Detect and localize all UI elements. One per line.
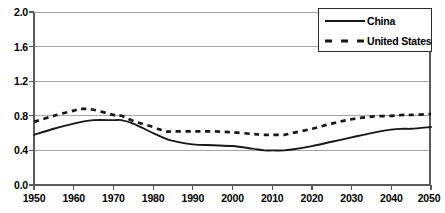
series-line-china (34, 120, 431, 151)
x-tick-label-2050: 2050 (409, 192, 445, 204)
x-tick-label-1990: 1990 (173, 192, 213, 204)
gridlines (34, 47, 431, 151)
dashed-line-swatch (323, 34, 367, 48)
y-tick-label-2.0: 2.0 (0, 6, 28, 18)
x-tick-label-1960: 1960 (54, 192, 94, 204)
series-line-united-states (34, 109, 431, 135)
chart-figure: 2.0 1.6 1.2 0.8 0.4 0.0 1950 1960 1970 1… (0, 0, 445, 213)
legend-label-china: China (367, 15, 395, 27)
x-tick-label-2030: 2030 (332, 192, 372, 204)
y-tick-label-0.0: 0.0 (0, 179, 28, 191)
legend-label-united-states: United States (367, 35, 432, 47)
legend-item-united-states[interactable]: United States (319, 31, 431, 51)
y-tick-label-1.2: 1.2 (0, 75, 28, 87)
x-tick-label-2000: 2000 (213, 192, 253, 204)
x-tick-label-1950: 1950 (14, 192, 54, 204)
legend-item-china[interactable]: China (319, 11, 431, 31)
y-tick-label-0.8: 0.8 (0, 110, 28, 122)
x-tick-label-2040: 2040 (371, 192, 411, 204)
x-tick-label-2010: 2010 (252, 192, 292, 204)
x-tick-label-1970: 1970 (93, 192, 133, 204)
solid-line-swatch (323, 14, 367, 28)
chart-legend: China United States (318, 8, 432, 52)
x-tick-label-2020: 2020 (292, 192, 332, 204)
y-tick-label-0.4: 0.4 (0, 144, 28, 156)
x-tick-label-1980: 1980 (133, 192, 173, 204)
y-tick-label-1.6: 1.6 (0, 41, 28, 53)
